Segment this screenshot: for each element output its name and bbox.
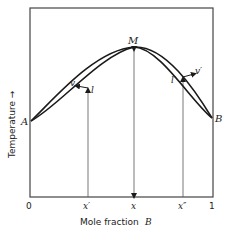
tie-line-right [183,74,194,77]
azeotrope-phase-diagram: M A B v l v′ l′ 0 x′ x x″ 1 Mole fractio… [0,0,232,234]
label-M: M [127,35,139,46]
label-l: l [91,85,94,95]
x-tick-0: 0 [26,201,32,211]
tie-line-left [77,86,88,88]
x-tick-x: x [131,201,136,211]
x-axis-label-var: B [144,217,152,227]
label-v-prime: v′ [195,66,202,76]
x-axis-label: Mole fraction B [80,217,152,227]
plot-frame [30,8,213,197]
label-A: A [20,116,28,127]
y-axis-label: Temperature → [7,90,17,159]
x-tick-x-double-prime: x″ [178,201,187,211]
label-B: B [214,113,222,124]
liquid-curve [31,47,212,121]
x-tick-x-prime: x′ [83,201,90,211]
x-axis-label-prefix: Mole fraction [80,217,139,227]
x-tick-1: 1 [209,201,215,211]
label-v: v [70,78,75,88]
vapor-curve [31,47,212,121]
label-l-prime: l′ [171,75,176,85]
